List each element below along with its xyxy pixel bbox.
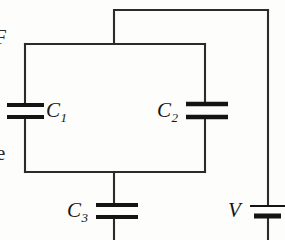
wire-top-outer — [114, 10, 268, 44]
capacitor-c2-plates — [186, 104, 228, 117]
circuit-schematic — [0, 0, 285, 240]
c2-letter: C — [157, 98, 171, 122]
c1-subscript: 1 — [61, 110, 68, 125]
circuit-diagram-figure: C1 C2 C3 V F e — [0, 0, 285, 240]
battery-label: V — [228, 200, 241, 221]
capacitor-c1-label: C1 — [46, 100, 67, 124]
battery-letter: V — [228, 198, 241, 222]
edge-text-fragment-bottom: e — [0, 143, 5, 164]
c3-letter: C — [67, 198, 81, 222]
c3-subscript: 3 — [82, 210, 89, 225]
capacitor-c3-label: C3 — [67, 200, 88, 224]
capacitor-c3-plates — [96, 205, 138, 217]
capacitor-c2-label: C2 — [157, 100, 178, 124]
capacitor-c1-plates — [7, 105, 44, 117]
c1-letter: C — [46, 98, 60, 122]
c2-subscript: 2 — [172, 110, 179, 125]
battery-plates — [250, 206, 285, 216]
edge-text-fragment-top: F — [0, 27, 7, 48]
